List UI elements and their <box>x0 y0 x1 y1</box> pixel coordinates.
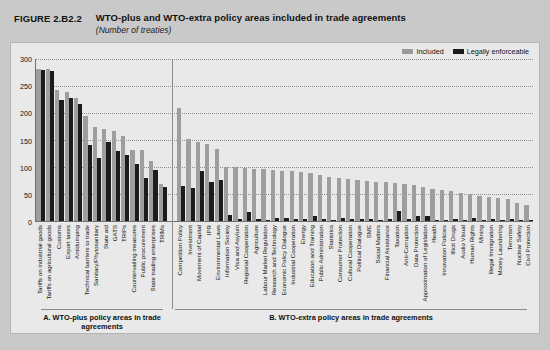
x-axis-label: Data Protection <box>411 223 420 309</box>
x-axis-label: Export taxes <box>63 223 72 309</box>
x-axis-label-text: Investment <box>187 225 193 255</box>
legend-item-legally-enforceable: Legally enforceable <box>453 47 529 56</box>
bar-group <box>289 59 298 221</box>
bar-group <box>242 59 251 221</box>
x-axis-label-text: Labour Market Regulation <box>262 225 268 295</box>
bar-legally-enforceable <box>209 182 213 221</box>
bar-legally-enforceable <box>519 220 523 221</box>
panel-separator <box>167 59 176 221</box>
bar-included <box>459 193 463 221</box>
bar-legally-enforceable <box>500 220 504 221</box>
x-axis-label-text: Taxation <box>394 225 400 248</box>
bar-group <box>336 59 345 221</box>
bar-included <box>430 189 434 221</box>
bar-included <box>299 172 303 221</box>
x-axis-label: State aid <box>101 223 110 309</box>
bar-legally-enforceable <box>153 170 157 221</box>
bar-group <box>505 59 514 221</box>
bar-legally-enforceable <box>378 220 382 221</box>
bar-legally-enforceable <box>78 104 82 221</box>
bar-included <box>327 177 331 221</box>
y-axis-tick: 300 <box>20 55 32 64</box>
bar-legally-enforceable <box>135 164 139 221</box>
bar-group <box>524 59 533 221</box>
bar-group <box>449 59 458 221</box>
bar-group <box>158 59 167 221</box>
legend-item-included: Included <box>402 47 443 56</box>
x-axis-label-text: Health <box>431 225 437 243</box>
bar-group <box>383 59 392 221</box>
bar-group <box>176 59 185 221</box>
x-axis-label-text: Movement of Capital <box>196 225 202 281</box>
bar-included <box>261 169 265 221</box>
x-axis-label: Regional Cooperation <box>242 223 251 309</box>
chart-panel: Included Legally enforceable 05010015020… <box>10 42 540 334</box>
x-axis-label-text: Visa and Asylum <box>234 225 240 270</box>
x-axis-label-text: Money Laundering <box>497 225 503 275</box>
x-axis-label: Consumer Protection <box>336 223 345 309</box>
bar-legally-enforceable <box>472 218 476 221</box>
bar-legally-enforceable <box>97 158 101 221</box>
x-axis-label: Research and Technology <box>270 223 279 309</box>
bar-legally-enforceable <box>463 220 467 221</box>
bar-included <box>346 179 350 221</box>
y-axis: 050100150200250300 <box>11 59 35 222</box>
bar-group <box>496 59 505 221</box>
bar-included <box>496 198 500 221</box>
x-axis-label-text: Illegal Immigration <box>488 225 494 274</box>
bar-group <box>55 59 64 221</box>
plot-area: 050100150200250300 Tariffs on industrial… <box>11 59 537 333</box>
x-axis-label: Financial Assistance <box>383 223 392 309</box>
x-axis-label: Statistics <box>326 223 335 309</box>
bar-legally-enforceable <box>322 219 326 221</box>
bar-legally-enforceable <box>388 219 392 221</box>
x-axis-label-text: Education and Training <box>309 225 315 287</box>
bar-legally-enforceable <box>247 212 251 221</box>
x-axis-label-text: Human Rights <box>469 225 475 264</box>
figure-header-text: WTO-plus and WTO-extra policy areas incl… <box>96 12 406 35</box>
bar-included <box>440 190 444 221</box>
bar-included <box>515 203 519 221</box>
bar-group <box>214 59 223 221</box>
figure-title: WTO-plus and WTO-extra policy areas incl… <box>96 12 406 23</box>
x-axis-label-text: Financial Assistance <box>384 225 390 280</box>
x-axis-label: State trading enterprises <box>148 223 157 309</box>
x-axis-label-text: Public Administration <box>318 225 324 282</box>
x-axis-label-text: Statistics <box>328 225 334 249</box>
bar-legally-enforceable <box>266 220 270 221</box>
bar-group <box>36 59 45 221</box>
x-axis-label-text: Data Protection <box>413 225 419 267</box>
x-axis-label: Sanitary/Phytosanitary <box>91 223 100 309</box>
x-axis-label-text: Tariffs on agricultural goods <box>46 225 52 299</box>
y-axis-tick: 0 <box>28 218 32 227</box>
bar-legally-enforceable <box>144 178 148 221</box>
bar-group <box>111 59 120 221</box>
x-axis-label-text: Environmental Laws <box>215 225 221 280</box>
x-axis-label: Customs <box>54 223 63 309</box>
x-axis-label: Energy <box>298 223 307 309</box>
x-axis-label: Innovation Policies <box>439 223 448 309</box>
bar-group <box>252 59 261 221</box>
y-axis-tick: 250 <box>20 82 32 91</box>
x-axis-label-text: Tariffs on industrial goods <box>37 225 43 294</box>
x-axis-label: Environmental Laws <box>213 223 222 309</box>
x-axis-label-text: State trading enterprises <box>150 225 156 291</box>
bar-group <box>355 59 364 221</box>
bar-legally-enforceable <box>59 100 63 222</box>
bar-legally-enforceable <box>50 71 54 221</box>
bar-legally-enforceable <box>453 219 457 221</box>
bar-group <box>439 59 448 221</box>
x-axis-label: Countervailing measures <box>129 223 138 309</box>
x-axis-label-text: Mining <box>478 225 484 243</box>
x-axis-label-text: Cultural Cooperation <box>347 225 353 281</box>
bar-group <box>374 59 383 221</box>
bar-legally-enforceable <box>125 155 129 221</box>
x-axis-label-text: Civil Protection <box>525 225 531 266</box>
x-axis-label: Public procurement <box>138 223 147 309</box>
bar-group <box>515 59 524 221</box>
bar-legally-enforceable <box>341 218 345 221</box>
x-axis-label: Health <box>430 223 439 309</box>
bar-legally-enforceable <box>416 216 420 221</box>
x-axis-label-text: Audio Visual <box>460 225 466 259</box>
bar-included <box>233 167 237 221</box>
